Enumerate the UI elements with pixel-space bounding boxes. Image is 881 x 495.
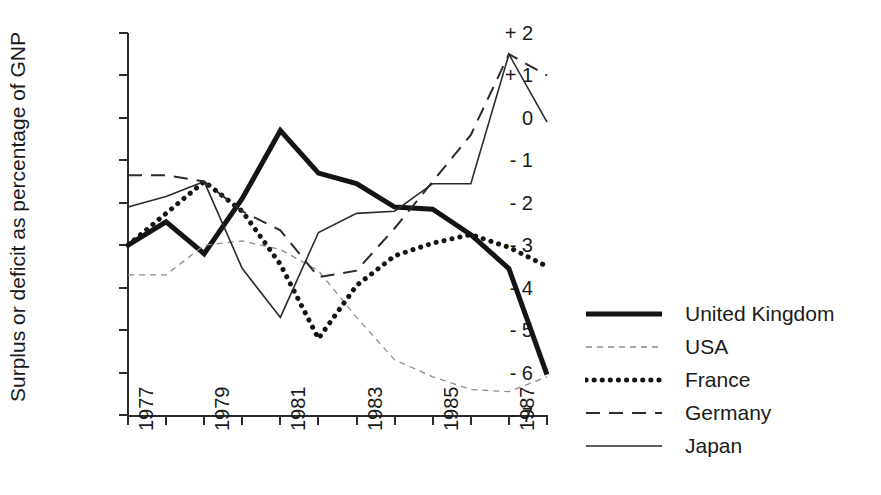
x-axis-tick <box>279 416 281 425</box>
series-lines <box>128 33 547 415</box>
legend-label: Germany <box>685 402 771 423</box>
x-axis-tick <box>432 416 434 425</box>
y-axis-tick <box>119 287 128 289</box>
chart-legend: United KingdomUSAFranceGermanyJapan <box>585 297 875 462</box>
legend-item: Japan <box>585 429 875 462</box>
legend-item: United Kingdom <box>585 297 875 330</box>
y-axis-tick <box>119 117 128 119</box>
y-axis-tick <box>119 372 128 374</box>
x-axis-line <box>127 415 548 417</box>
x-axis-tick <box>546 416 548 425</box>
y-axis-tick <box>119 74 128 76</box>
legend-label: United Kingdom <box>685 303 834 324</box>
series-line <box>128 182 547 339</box>
legend-line-swatch <box>585 403 663 423</box>
legend-line-swatch <box>585 370 663 390</box>
series-line <box>128 241 547 392</box>
legend-label: USA <box>685 336 728 357</box>
x-axis-tick <box>508 416 510 425</box>
line-chart-figure: Surplus or deficit as percentage of GNP … <box>0 0 881 495</box>
x-axis-tick <box>241 416 243 425</box>
plot-area: + 2+ 10- 1- 2- 3- 4- 5- 6- 7 19771979198… <box>128 33 547 415</box>
legend-label: France <box>685 369 750 390</box>
y-axis-tick <box>119 329 128 331</box>
legend-label: Japan <box>685 435 742 456</box>
legend-line-swatch <box>585 337 663 357</box>
x-axis-tick <box>165 416 167 425</box>
legend-item: France <box>585 363 875 396</box>
x-axis-tick <box>356 416 358 425</box>
y-axis-tick <box>119 202 128 204</box>
y-axis-title: Surplus or deficit as percentage of GNP <box>0 2 36 432</box>
x-axis-tick <box>394 416 396 425</box>
x-axis-tick <box>203 416 205 425</box>
series-line <box>128 54 547 317</box>
legend-item: Germany <box>585 396 875 429</box>
series-line <box>128 131 547 375</box>
legend-line-swatch <box>585 436 663 456</box>
y-axis-tick <box>119 159 128 161</box>
x-axis-tick <box>127 416 129 425</box>
x-axis-tick <box>317 416 319 425</box>
legend-line-swatch <box>585 304 663 324</box>
x-axis-tick <box>470 416 472 425</box>
legend-item: USA <box>585 330 875 363</box>
y-axis-tick <box>119 32 128 34</box>
